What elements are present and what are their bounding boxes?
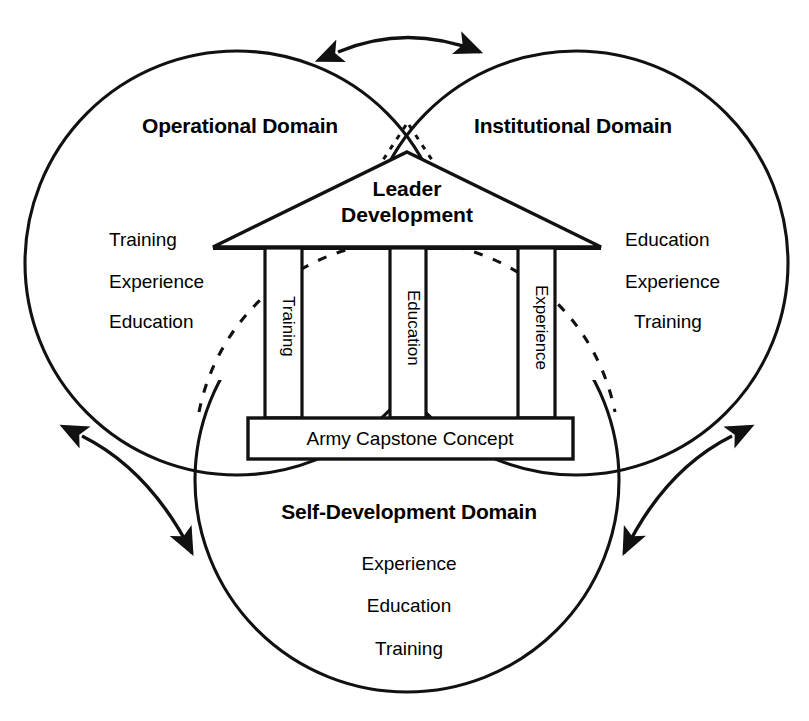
- self-development-domain-item-0: Experience: [361, 553, 456, 574]
- roof-label-line1: Leader: [373, 177, 442, 200]
- self-development-domain-title: Self-Development Domain: [281, 500, 537, 523]
- institutional-domain-item-1: Experience: [625, 271, 720, 292]
- institutional-selfdevelopment-arrow: [624, 436, 732, 553]
- pillar-label-experience: Experience: [532, 285, 551, 370]
- self-development-domain-labels: Self-Development Domain Experience Educa…: [281, 500, 537, 659]
- operational-domain-item-2: Education: [109, 311, 194, 332]
- self-development-domain-item-2: Training: [375, 638, 443, 659]
- leader-development-temple: Leader Development Training Education Ex…: [213, 125, 601, 459]
- leader-development-diagram: Leader Development Training Education Ex…: [0, 0, 809, 721]
- institutional-domain-title: Institutional Domain: [474, 114, 672, 137]
- self-development-domain-item-1: Education: [367, 595, 452, 616]
- pillar-label-training: Training: [279, 296, 298, 357]
- roof-label-line2: Development: [341, 203, 473, 226]
- operational-selfdevelopment-arrow: [82, 436, 192, 553]
- diagram-canvas: Leader Development Training Education Ex…: [0, 0, 809, 721]
- operational-domain-item-1: Experience: [109, 271, 204, 292]
- operational-institutional-arrow: [338, 38, 480, 53]
- institutional-domain-item-0: Education: [625, 229, 710, 250]
- temple-base-label: Army Capstone Concept: [307, 428, 515, 449]
- operational-domain-item-0: Training: [109, 229, 177, 250]
- institutional-domain-item-2: Training: [634, 311, 702, 332]
- operational-domain-title: Operational Domain: [142, 114, 338, 137]
- pillar-label-education: Education: [404, 290, 423, 366]
